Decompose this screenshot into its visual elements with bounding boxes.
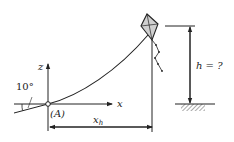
origin-label: (A): [50, 108, 65, 119]
kite-diagram: z x 10° (A) xh h = ?: [0, 0, 234, 142]
ground-icon: [175, 104, 215, 111]
origin-point: [46, 102, 51, 107]
kite-string: [48, 35, 148, 104]
z-axis-label: z: [37, 61, 44, 72]
height-label: h = ?: [196, 60, 223, 71]
angle-line: [14, 97, 48, 113]
xh-label: xh: [93, 114, 103, 127]
angle-label: 10°: [16, 81, 34, 92]
x-axis-label: x: [117, 98, 123, 109]
diagram-canvas: z x 10° (A) xh h = ?: [0, 0, 234, 142]
height-dimension: [165, 26, 195, 103]
